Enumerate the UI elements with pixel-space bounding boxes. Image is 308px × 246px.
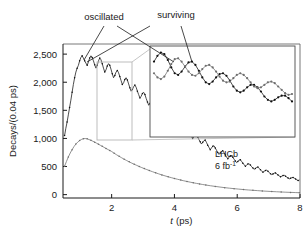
data-point-surviving (128, 161, 130, 163)
inset-data-point-oscillated (167, 59, 169, 61)
data-point-surviving (118, 156, 120, 158)
inset-data-point-surviving (284, 92, 286, 94)
data-point-oscillated (117, 70, 119, 72)
data-point-oscillated (212, 146, 214, 148)
integrated-luminosity-value: 6 fb (215, 161, 230, 171)
data-point-surviving (68, 156, 70, 158)
data-point-surviving (180, 179, 182, 181)
data-point-surviving (290, 192, 292, 194)
inset-data-point-oscillated (201, 76, 203, 78)
inset-data-point-oscillated (177, 74, 179, 76)
inset-data-point-surviving (232, 77, 234, 79)
data-point-oscillated (147, 101, 149, 103)
data-point-surviving (98, 143, 100, 145)
data-point-oscillated (144, 94, 146, 96)
data-point-oscillated (74, 77, 76, 79)
data-point-surviving (161, 174, 163, 176)
inset-data-point-surviving (281, 89, 283, 91)
data-point-oscillated (66, 121, 68, 123)
x-tick-label: 8 (297, 202, 302, 213)
x-axis-title-unit: (ps) (176, 215, 192, 226)
data-point-surviving (186, 181, 188, 183)
inset-data-point-oscillated (246, 86, 248, 88)
data-point-surviving (90, 140, 92, 142)
data-point-oscillated (134, 84, 136, 86)
data-point-oscillated (260, 169, 262, 171)
inset-data-point-surviving (263, 84, 265, 86)
data-point-oscillated (285, 175, 287, 177)
inset-data-point-surviving (229, 80, 231, 82)
inset-data-point-oscillated (232, 85, 234, 87)
inset-data-point-oscillated (212, 80, 214, 82)
inset-data-point-oscillated (222, 72, 224, 74)
inset-data-point-oscillated (156, 55, 158, 57)
data-point-surviving (271, 191, 273, 193)
data-point-surviving (252, 190, 254, 192)
inset-data-point-surviving (187, 70, 189, 72)
inset-data-point-surviving (174, 58, 176, 60)
data-point-oscillated (209, 149, 211, 151)
data-point-oscillated (112, 73, 114, 75)
data-point-oscillated (255, 168, 257, 170)
data-point-surviving (79, 140, 81, 142)
data-point-surviving (199, 183, 201, 185)
data-point-oscillated (84, 60, 86, 62)
data-point-oscillated (265, 170, 267, 172)
data-point-oscillated (257, 166, 259, 168)
x-tick-label: 4 (172, 202, 177, 213)
data-point-surviving (233, 188, 235, 190)
inset-data-point-surviving (243, 74, 245, 76)
x-axis-title-symbol: t (170, 215, 173, 226)
data-point-oscillated (137, 90, 139, 92)
data-point-oscillated (292, 177, 294, 179)
inset-data-point-oscillated (270, 100, 272, 102)
leader-oscillated-main (84, 26, 104, 60)
inset-data-point-surviving (194, 75, 196, 77)
data-point-oscillated (270, 173, 272, 175)
inset-data-point-surviving (160, 78, 162, 80)
inset-data-point-surviving (201, 68, 203, 70)
inset-data-point-oscillated (153, 61, 155, 63)
inset-data-point-surviving (184, 66, 186, 68)
data-point-oscillated (242, 162, 244, 164)
data-point-oscillated (252, 167, 254, 169)
x-axis-title: t (ps) (170, 215, 192, 226)
data-point-oscillated (142, 93, 144, 95)
y-tick-label: 2,000 (33, 77, 57, 88)
inset-data-point-surviving (246, 77, 248, 79)
inset-data-point-surviving (253, 85, 255, 87)
inset-data-point-oscillated (267, 99, 269, 101)
inset-data-point-surviving (267, 81, 269, 83)
data-point-surviving (71, 149, 73, 151)
data-point-oscillated (297, 180, 299, 182)
data-point-oscillated (290, 177, 292, 179)
inset-data-point-surviving (225, 81, 227, 83)
inset-data-point-surviving (287, 94, 289, 96)
data-point-oscillated (99, 57, 101, 59)
data-point-oscillated (202, 142, 204, 144)
experiment-name: LHCb (215, 149, 238, 159)
data-point-surviving (149, 170, 151, 172)
data-point-surviving (174, 178, 176, 180)
data-point-oscillated (280, 176, 282, 178)
lhcb-decay-time-figure: 05001,0001,5002,0002,500 2468 Decays/(0.… (0, 0, 308, 246)
data-point-surviving (113, 152, 115, 154)
inset-data-point-surviving (208, 64, 210, 66)
inset-data-point-oscillated (281, 95, 283, 97)
data-point-surviving (280, 191, 282, 193)
data-point-oscillated (245, 165, 247, 167)
data-point-surviving (215, 186, 217, 188)
data-point-oscillated (237, 161, 239, 163)
series-line-surviving (65, 139, 300, 193)
y-tick-label: 500 (41, 161, 57, 172)
data-point-oscillated (104, 71, 106, 73)
inset-data-point-oscillated (236, 90, 238, 92)
data-point-oscillated (122, 84, 124, 86)
inset-data-point-surviving (222, 80, 224, 82)
experiment-label: LHCb 6 fb-1 (215, 149, 238, 171)
integrated-luminosity-exponent: -1 (230, 160, 236, 167)
data-point-oscillated (247, 163, 249, 165)
y-tick-label: 1,000 (33, 133, 57, 144)
inset-data-point-surviving (277, 85, 279, 87)
data-point-oscillated (129, 87, 131, 89)
